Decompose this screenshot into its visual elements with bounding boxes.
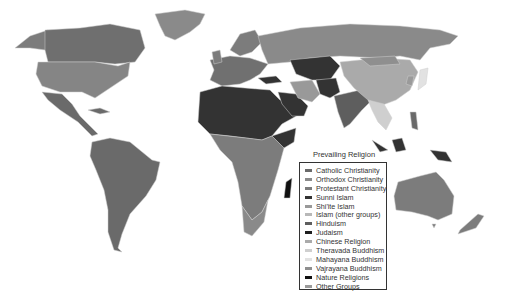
legend-item-other: Other Groups — [305, 282, 386, 291]
region-south-america — [90, 138, 160, 252]
legend-item-mahayana: Mahayana Buddhism — [305, 255, 386, 264]
swatch-icon — [305, 187, 312, 190]
region-scandinavia — [230, 30, 262, 56]
legend-item-orthodox: Orthodox Christianity — [305, 175, 386, 184]
swatch-icon — [305, 249, 312, 252]
swatch-icon — [305, 196, 312, 199]
region-australia — [394, 172, 454, 220]
region-pakistan — [316, 78, 340, 98]
region-se-asia — [368, 100, 392, 130]
region-tasmania — [432, 224, 436, 228]
legend-item-chinese-religion: Chinese Religion — [305, 237, 386, 246]
swatch-icon — [305, 169, 312, 172]
legend-item-nature: Nature Religions — [305, 273, 386, 282]
region-canada — [45, 24, 145, 64]
legend-item-catholic: Catholic Christianity — [305, 166, 386, 175]
region-philippines — [410, 112, 418, 130]
swatch-icon — [305, 267, 312, 270]
legend-title: Prevailing Religion — [300, 150, 388, 159]
legend-item-hinduism: Hinduism — [305, 219, 386, 228]
region-madagascar — [284, 178, 292, 198]
legend: Catholic Christianity Orthodox Christian… — [299, 162, 387, 290]
region-mexico — [42, 92, 98, 136]
swatch-icon — [305, 205, 312, 208]
region-uk — [212, 50, 222, 64]
legend-item-theravada: Theravada Buddhism — [305, 246, 386, 255]
legend-item-sunni: Sunni Islam — [305, 193, 386, 202]
region-japan — [418, 68, 428, 90]
legend-item-shiite: Shi'ite Islam — [305, 202, 386, 211]
swatch-icon — [305, 258, 312, 261]
region-greenland — [155, 10, 205, 40]
swatch-icon — [305, 231, 312, 234]
swatch-icon — [305, 240, 312, 243]
region-russia — [258, 24, 458, 64]
swatch-icon — [305, 213, 312, 216]
legend-item-protestant: Protestant Christianity — [305, 184, 386, 193]
swatch-icon — [305, 178, 312, 181]
legend-item-judaism: Judaism — [305, 228, 386, 237]
region-turkey — [258, 76, 282, 84]
swatch-icon — [305, 222, 312, 225]
region-central-africa — [210, 134, 284, 220]
world-map — [0, 0, 528, 299]
legend-item-islam-other: Islam (other groups) — [305, 210, 386, 219]
swatch-icon — [305, 276, 312, 279]
region-caribbean — [88, 108, 110, 114]
region-new-zealand — [458, 214, 484, 234]
region-central-asia — [290, 56, 340, 80]
legend-item-vajrayana: Vajrayana Buddhism — [305, 264, 386, 273]
swatch-icon — [305, 285, 312, 288]
